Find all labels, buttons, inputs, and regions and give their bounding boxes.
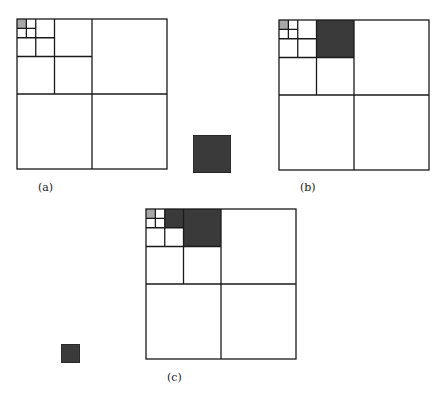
dark-cell — [184, 209, 222, 247]
quadtree-panel-a — [16, 18, 168, 170]
dark-cell — [165, 209, 184, 228]
panel-label-b: (b) — [300, 181, 316, 194]
quadtree-grid — [145, 208, 297, 360]
gray-cell — [146, 209, 155, 218]
quadtree-panel-b — [278, 19, 430, 171]
large-dark-square — [193, 135, 231, 173]
panel-label-a: (a) — [38, 181, 53, 194]
quadtree-grid — [16, 18, 168, 170]
panel-label-c: (c) — [167, 371, 182, 384]
gray-cell — [279, 20, 288, 29]
dark-cell — [317, 20, 355, 58]
small-dark-square — [61, 344, 80, 363]
gray-cell — [17, 19, 26, 28]
quadtree-grid — [278, 19, 430, 171]
quadtree-panel-c — [145, 208, 297, 360]
